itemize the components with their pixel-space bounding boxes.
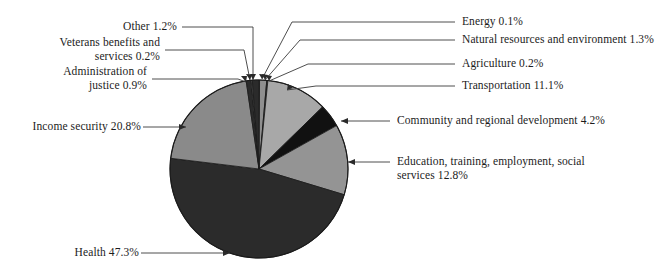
pie-slices (170, 80, 348, 258)
leader-line-natural-resources (265, 40, 455, 80)
callout-label-justice: Administration of justice 0.9% (0, 65, 147, 92)
arrow-education (348, 159, 355, 165)
leader-line-agriculture (269, 64, 455, 81)
callout-label-veterans: Veterans benefits and services 0.2% (0, 36, 160, 63)
callout-label-health: Health 47.3% (0, 246, 139, 260)
callout-label-other: Other 1.2% (17, 20, 177, 34)
callout-label-education: Education, training, employment, social … (397, 155, 612, 182)
pie-slice (171, 81, 259, 169)
callout-label-agriculture: Agriculture 0.2% (462, 57, 612, 71)
callout-label-natural-resources: Natural resources and environment 1.3% (462, 33, 659, 47)
leader-line-transportation (287, 86, 455, 90)
callout-label-income-security: Income security 20.8% (0, 120, 141, 134)
leader-line-other (182, 27, 253, 80)
arrow-community (341, 118, 348, 124)
leader-line-justice (152, 79, 246, 82)
arrow-veterans (246, 74, 252, 80)
callout-label-energy: Energy 0.1% (462, 15, 612, 29)
callout-label-community: Community and regional development 4.2% (397, 114, 617, 128)
leader-line-veterans (165, 50, 250, 80)
callout-label-transportation: Transportation 11.1% (462, 79, 612, 93)
